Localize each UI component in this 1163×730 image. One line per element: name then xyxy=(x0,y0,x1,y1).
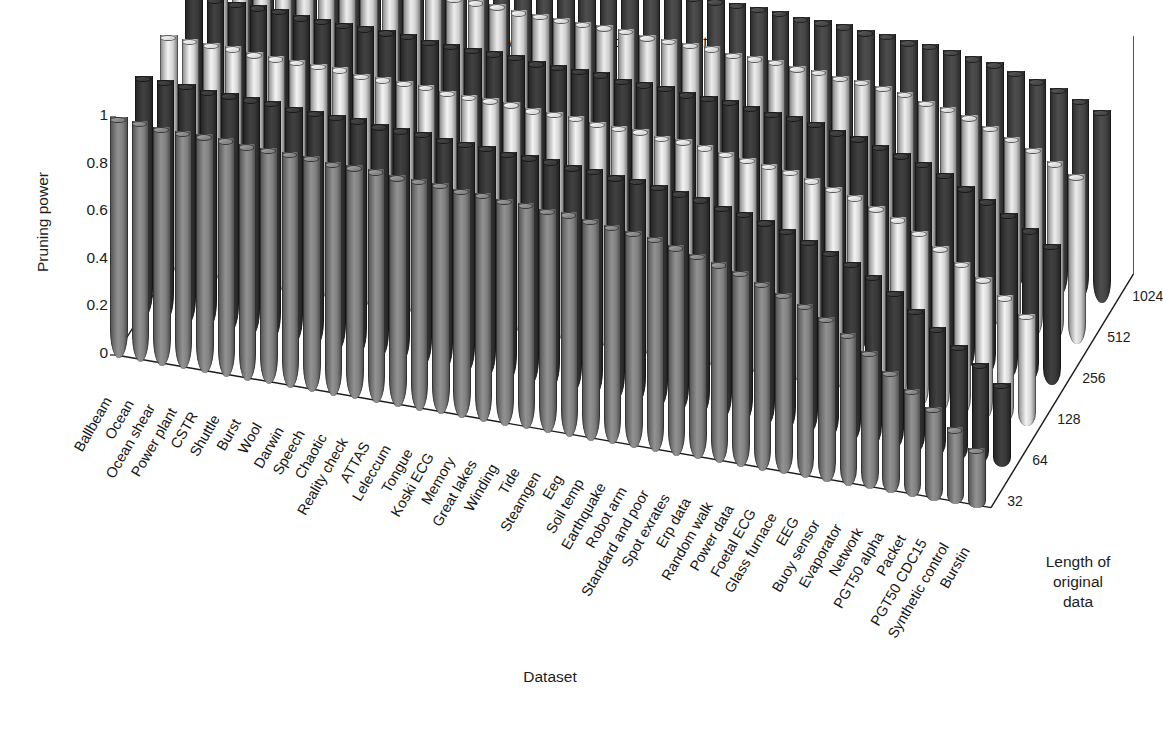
bar-cap xyxy=(375,77,391,83)
bar-cap xyxy=(739,158,755,164)
bar-cap xyxy=(700,96,716,102)
bar-cap xyxy=(328,115,344,121)
bar-cap xyxy=(553,18,569,24)
bar-cap xyxy=(900,40,916,46)
bar-cap xyxy=(668,245,684,251)
bar-cap xyxy=(718,152,734,158)
bar-cylinder xyxy=(389,175,405,407)
bar-cylinder xyxy=(260,148,276,384)
bar-cylinder xyxy=(754,282,770,471)
bar-cylinder xyxy=(732,271,748,467)
bar-cap xyxy=(225,46,241,52)
bar-cylinder xyxy=(175,131,191,370)
bar-cap xyxy=(697,145,713,151)
bar-cap xyxy=(611,126,627,132)
bar-body xyxy=(346,165,364,399)
bar-cap xyxy=(325,162,341,168)
bar-cap xyxy=(332,67,348,73)
bar-cap xyxy=(722,100,738,106)
bar-cap xyxy=(693,197,709,203)
bar-body xyxy=(260,148,278,384)
bar-cap xyxy=(561,212,577,218)
bar-body xyxy=(175,131,193,370)
bar-cap xyxy=(604,225,620,231)
bar-cap xyxy=(997,295,1013,301)
bar-cap xyxy=(607,175,623,181)
bar-body xyxy=(993,383,1011,467)
bar-cap xyxy=(439,91,455,97)
bar-body xyxy=(840,333,858,486)
bar-body xyxy=(861,351,879,490)
bar-body xyxy=(968,448,986,508)
bar-cap xyxy=(1093,110,1109,116)
bar-cap xyxy=(707,0,723,6)
bar-cap xyxy=(836,24,852,30)
bar-cap xyxy=(886,291,902,297)
bar-body xyxy=(539,209,557,434)
bar-cap xyxy=(203,43,219,49)
bar-cylinder xyxy=(132,121,148,362)
bar-cap xyxy=(596,25,612,31)
bar-cylinder xyxy=(325,162,341,396)
bar-cap xyxy=(582,219,598,225)
bar-cap xyxy=(593,72,609,78)
bar-body xyxy=(239,144,257,380)
bar-cap xyxy=(1029,79,1045,85)
bar-cap xyxy=(461,95,477,101)
bar-cap xyxy=(357,26,373,32)
bar-cap xyxy=(293,15,309,21)
bar-body xyxy=(947,427,965,504)
bar-cap xyxy=(639,35,655,41)
bar-cap xyxy=(575,22,591,28)
bar-cap xyxy=(239,144,255,150)
bar-cylinder xyxy=(604,225,620,445)
bar-cap xyxy=(335,23,351,29)
bar-cap xyxy=(1007,71,1023,77)
bar-body xyxy=(647,237,665,452)
bar-cylinder xyxy=(797,304,813,479)
bar-cap xyxy=(918,101,934,107)
bar-cap xyxy=(632,129,648,135)
bar-cap xyxy=(972,363,988,369)
bar-cylinder xyxy=(882,371,898,493)
bar-cap xyxy=(521,155,537,161)
bar-cap xyxy=(940,107,956,113)
bar-body xyxy=(604,225,622,445)
bar-cap xyxy=(804,178,820,184)
bar-body xyxy=(797,304,815,479)
bar-cap xyxy=(350,118,366,124)
bar-body xyxy=(1018,314,1036,427)
bar-body xyxy=(818,317,836,482)
bar-body xyxy=(453,189,471,418)
bar-cylinder xyxy=(1068,174,1084,344)
bar-cap xyxy=(850,136,866,142)
bar-cap xyxy=(893,153,909,159)
bar-body xyxy=(153,127,171,366)
bar-cap xyxy=(1050,88,1066,94)
bar-cap xyxy=(496,199,512,205)
bar-body xyxy=(389,175,407,407)
bar-cap xyxy=(936,173,952,179)
bar-cylinder xyxy=(368,169,384,403)
bar-cap xyxy=(907,309,923,315)
bar-cap xyxy=(414,132,430,138)
bar-cap xyxy=(178,84,194,90)
bar-body xyxy=(218,138,236,377)
bar-cap xyxy=(528,61,544,67)
bar-cylinder xyxy=(647,237,663,452)
bar-cap xyxy=(389,175,405,181)
bar-cylinder xyxy=(840,333,856,486)
bar-body xyxy=(325,162,343,396)
bar-cap xyxy=(175,131,191,137)
bar-cap xyxy=(818,317,834,323)
bar-cap xyxy=(478,146,494,152)
bar-cap xyxy=(654,136,670,142)
bar-cylinder xyxy=(411,179,427,411)
bar-cap xyxy=(346,165,362,171)
bar-cap xyxy=(378,30,394,36)
bar-cap xyxy=(775,293,791,299)
bar-cap xyxy=(950,345,966,351)
bar-cap xyxy=(1047,161,1063,167)
bar-body xyxy=(196,134,214,373)
bar-cap xyxy=(932,246,948,252)
